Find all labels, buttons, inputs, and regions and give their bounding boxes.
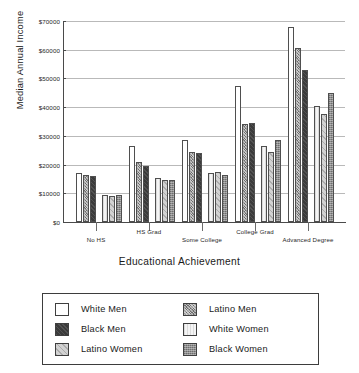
bar [222, 175, 228, 222]
x-axis-tick-mark [308, 222, 309, 231]
bar-group [76, 173, 123, 222]
bar [328, 93, 334, 222]
y-axis-tick-label: $60000 [39, 46, 60, 53]
bar [215, 172, 221, 222]
x-axis-tick-mark [96, 222, 97, 231]
bar [129, 146, 135, 222]
bar [76, 173, 82, 222]
legend-item: Black Women [183, 339, 311, 359]
bar-group [288, 27, 335, 222]
gridline [63, 222, 345, 223]
legend-swatch [183, 323, 197, 336]
bar-group [129, 146, 176, 222]
x-axis-category-label: HS Grad [137, 228, 162, 235]
bar [116, 195, 122, 222]
bar [261, 146, 267, 222]
bar [136, 162, 142, 222]
legend-item: White Men [55, 299, 183, 319]
y-axis-tick-mark [63, 50, 66, 51]
bar [109, 196, 115, 222]
bar-group [182, 140, 229, 222]
x-axis-title: Educational Achievement [0, 256, 359, 267]
bar [235, 86, 241, 222]
legend-swatch [55, 303, 69, 316]
legend-label: White Women [209, 324, 269, 334]
bar [169, 180, 175, 222]
bar [208, 173, 214, 222]
x-axis-category-label: Advanced Degree [282, 236, 333, 243]
legend-entries: White MenLatino MenBlack MenWhite WomenL… [43, 294, 318, 364]
bar [268, 152, 274, 222]
bar [182, 140, 188, 222]
bar [155, 178, 161, 223]
bar [275, 140, 281, 222]
legend-swatch [183, 343, 197, 356]
bar [249, 123, 255, 222]
y-axis-tick-label: $70000 [39, 18, 60, 25]
bar [83, 175, 89, 222]
y-axis-tick-label: $40000 [39, 104, 60, 111]
bar [302, 70, 308, 222]
y-axis-tick-mark [63, 21, 66, 22]
legend-item: Latino Men [183, 299, 311, 319]
bar-chart-figure: Median Annual Income $0$10000$20000$3000… [0, 0, 359, 373]
legend-item: White Women [183, 319, 311, 339]
legend-label: Latino Women [81, 344, 142, 354]
x-axis-category-label: No HS [87, 236, 106, 243]
bar [143, 166, 149, 222]
legend-label: White Men [81, 304, 127, 314]
y-axis-tick-mark [63, 107, 66, 108]
bar [162, 180, 168, 222]
plot-area [63, 21, 345, 222]
bar [102, 195, 108, 222]
legend-item: Black Men [55, 319, 183, 339]
legend-swatch [55, 343, 69, 356]
legend-label: Latino Men [209, 304, 256, 314]
bar [189, 152, 195, 222]
bar [196, 153, 202, 222]
bar-groups [63, 21, 345, 222]
x-axis-category-label: Some College [182, 236, 222, 243]
legend-label: Black Men [81, 324, 126, 334]
x-axis-tick-mark [202, 222, 203, 231]
y-axis-tick-label: $30000 [39, 132, 60, 139]
y-axis-tick-mark [63, 165, 66, 166]
y-axis-tick-mark [63, 193, 66, 194]
legend-swatch [183, 303, 197, 316]
bar-group [235, 86, 282, 222]
legend-swatch [55, 323, 69, 336]
bar [321, 114, 327, 222]
legend: White MenLatino MenBlack MenWhite WomenL… [42, 293, 319, 365]
y-axis-tick-label: $10000 [39, 190, 60, 197]
bar [314, 106, 320, 222]
bar [90, 176, 96, 222]
y-axis-tick-label: $0 [53, 219, 60, 226]
y-axis-tick-label: $20000 [39, 161, 60, 168]
y-axis-tick-label: $50000 [39, 75, 60, 82]
y-axis-tick-mark [63, 136, 66, 137]
x-axis-category-label: College Grad [236, 228, 274, 235]
bar [288, 27, 294, 222]
y-axis-tick-mark [63, 222, 66, 223]
legend-label: Black Women [209, 344, 268, 354]
bar [295, 48, 301, 222]
y-axis-tick-labels: $0$10000$20000$30000$40000$50000$60000$7… [0, 21, 60, 222]
legend-item: Latino Women [55, 339, 183, 359]
y-axis-tick-mark [63, 78, 66, 79]
bar [242, 124, 248, 222]
